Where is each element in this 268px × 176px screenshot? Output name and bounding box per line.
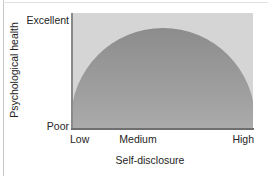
y-tick-label-poor: Poor [47, 121, 69, 132]
y-axis-title: Psychological health [9, 22, 20, 118]
y-tick-label-excellent: Excellent [26, 15, 69, 26]
x-axis-line [71, 128, 254, 130]
inverted-u-curve-fill [73, 28, 253, 128]
figure-container: Excellent Poor Low Medium High Self-disc… [0, 0, 268, 176]
y-axis-line [71, 13, 73, 129]
x-tick-label-low: Low [70, 134, 89, 145]
x-tick-label-medium: Medium [119, 134, 156, 145]
x-tick-label-high: High [232, 134, 254, 145]
frame-left-rule [3, 0, 4, 176]
plot-area [73, 13, 253, 128]
x-axis-title: Self-disclosure [116, 155, 185, 166]
frame-top-rule [3, 2, 268, 3]
